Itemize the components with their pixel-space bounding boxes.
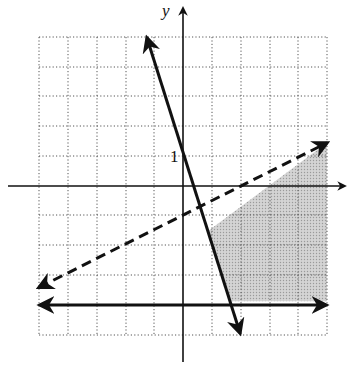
y-axis-label: y bbox=[160, 1, 170, 20]
graph: y 1 bbox=[0, 0, 348, 371]
y-tick-label-1: 1 bbox=[170, 147, 179, 166]
shaded-region bbox=[208, 143, 327, 301]
